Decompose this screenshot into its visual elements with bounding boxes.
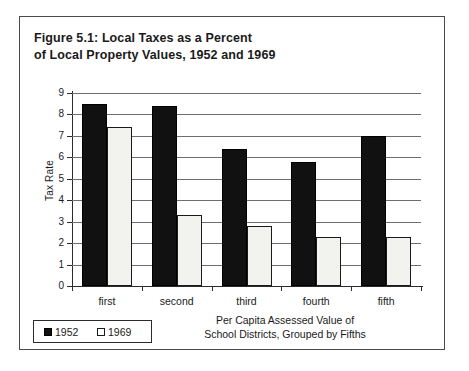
y-axis-tick [67, 136, 72, 137]
bar-fourth-1952 [291, 162, 316, 286]
gridline [72, 93, 421, 94]
bar-fifth-1952 [361, 136, 386, 286]
y-axis-label: 1 [48, 260, 64, 270]
y-axis-label: 7 [48, 131, 64, 141]
x-axis-tick [281, 286, 282, 291]
bar-first-1969 [107, 127, 132, 286]
y-axis-label: 4 [48, 195, 64, 205]
y-axis-tick [67, 93, 72, 94]
bar-second-1952 [152, 106, 177, 286]
bar-first-1952 [82, 104, 107, 286]
x-axis-tick [142, 286, 143, 291]
plot-area: 0123456789 [72, 93, 421, 286]
y-axis-label: 9 [48, 88, 64, 98]
y-axis-tick [67, 265, 72, 266]
x-axis-title: Per Capita Assessed Value of School Dist… [160, 313, 410, 341]
bar-third-1952 [222, 149, 247, 286]
chart-plot-wrapper: Tax Rate 0123456789 firstsecondthirdfour… [20, 17, 446, 351]
legend-item-1952: 1952 [44, 326, 78, 338]
y-axis-tick [67, 200, 72, 201]
x-axis-category-fourth: fourth [281, 295, 351, 307]
legend-label-1952: 1952 [55, 326, 78, 338]
x-axis-title-line-1: Per Capita Assessed Value of [160, 313, 410, 327]
x-axis-category-first: first [72, 295, 142, 307]
bar-second-1969 [177, 215, 202, 286]
chart-legend: 1952 1969 [33, 320, 152, 343]
gridline [72, 114, 421, 115]
y-axis-tick [67, 157, 72, 158]
x-axis-tick [351, 286, 352, 291]
y-axis-tick [67, 179, 72, 180]
y-axis-label: 0 [48, 281, 64, 291]
y-axis-label: 8 [48, 109, 64, 119]
bar-third-1969 [247, 226, 272, 286]
y-axis-label: 3 [48, 217, 64, 227]
y-axis-label: 5 [48, 174, 64, 184]
y-axis-tick [67, 222, 72, 223]
x-axis-line [72, 286, 423, 287]
x-axis-tick [72, 286, 73, 291]
y-axis-tick [67, 114, 72, 115]
filled-square-icon [44, 328, 52, 336]
x-axis-title-line-2: School Districts, Grouped by Fifths [160, 327, 410, 341]
x-axis-category-fifth: fifth [351, 295, 421, 307]
y-axis-tick [67, 243, 72, 244]
hollow-square-icon [97, 328, 105, 336]
x-axis-tick [212, 286, 213, 291]
legend-item-1969: 1969 [97, 326, 131, 338]
legend-label-1969: 1969 [108, 326, 131, 338]
bar-fifth-1969 [386, 237, 411, 286]
x-axis-category-second: second [142, 295, 212, 307]
bar-fourth-1969 [316, 237, 341, 286]
y-axis-label: 2 [48, 238, 64, 248]
x-axis-category-third: third [212, 295, 282, 307]
figure-frame: Figure 5.1: Local Taxes as a Percent of … [19, 16, 445, 350]
y-axis-label: 6 [48, 152, 64, 162]
x-axis-tick [421, 286, 422, 291]
